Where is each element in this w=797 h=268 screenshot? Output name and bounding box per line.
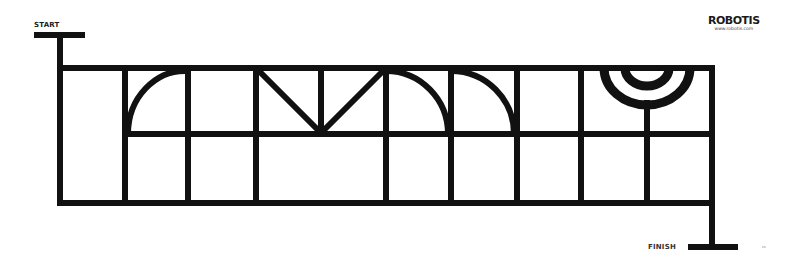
- curve-2: [386, 71, 448, 134]
- line-tracer-track-map: START FINISH ROBOTIS www.robotis.com co: [0, 0, 797, 268]
- curve-3: [451, 71, 514, 134]
- curve-1: [128, 71, 188, 134]
- diagonal-left: [258, 70, 321, 133]
- track-lines: [0, 0, 797, 268]
- diagonal-right: [321, 70, 384, 133]
